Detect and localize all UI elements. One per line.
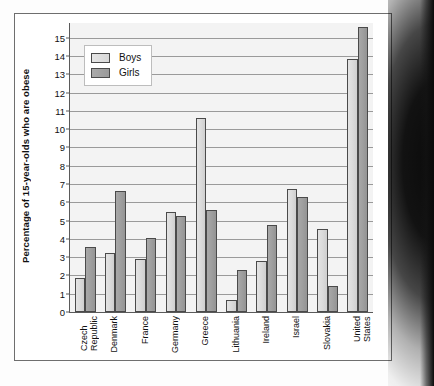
bar-boys [317, 229, 327, 312]
y-tick-label: 10 [54, 124, 65, 135]
x-axis-labels: Czech RepublicDenmarkFranceGermanyGreece… [69, 316, 372, 386]
y-tick-label: 15 [54, 32, 65, 43]
bar-group [252, 23, 282, 312]
x-axis-category-label: Greece [200, 316, 210, 346]
bar-boys [287, 189, 297, 312]
x-axis-category-label: Lithuania [231, 316, 241, 353]
bar-girls [358, 27, 368, 312]
x-axis-category-label: United States [352, 316, 372, 342]
x-axis-category-label: Slovakia [322, 316, 332, 350]
bar-boys [256, 261, 266, 312]
legend: Boys Girls [84, 45, 152, 86]
bar-girls [176, 216, 186, 312]
bar-group [222, 23, 252, 312]
bar-girls [146, 238, 156, 312]
bar-girls [237, 270, 247, 312]
y-tick-label: 3 [60, 252, 65, 263]
bar-girls [115, 191, 125, 312]
legend-item-boys: Boys [91, 50, 141, 65]
bar-boys [75, 278, 85, 312]
y-tick-label: 1 [60, 288, 65, 299]
legend-swatch-girls-icon [91, 68, 110, 78]
legend-swatch-boys-icon [91, 53, 110, 63]
figure-frame: Percentage of 15-year-olds who are obese… [14, 13, 392, 361]
y-tick-label: 14 [54, 50, 65, 61]
bar-girls [297, 197, 307, 312]
plot-area: 0123456789101112131415 Boys Girls [69, 23, 373, 313]
bar-girls [85, 247, 95, 312]
x-axis-category-label: Ireland [261, 316, 271, 344]
x-axis-category-label: Denmark [109, 316, 119, 353]
y-tick-label: 2 [60, 270, 65, 281]
y-tick-label: 11 [55, 105, 65, 116]
bar-girls [328, 286, 338, 312]
x-axis-category-label: Israel [291, 316, 301, 338]
y-tick-label: 4 [60, 233, 65, 244]
bar-boys [105, 253, 115, 312]
bar-boys [196, 118, 206, 312]
bar-group [343, 23, 373, 312]
x-axis-category-label: Czech Republic [79, 316, 99, 351]
bar-boys [135, 259, 145, 312]
x-axis-category-label: France [140, 316, 150, 344]
bar-group [282, 23, 312, 312]
bar-chart: Percentage of 15-year-olds who are obese… [15, 14, 391, 360]
y-tick-label: 12 [54, 87, 65, 98]
y-tick-label: 8 [60, 160, 65, 171]
y-tick-label: 7 [60, 178, 65, 189]
y-tick-label: 9 [60, 142, 65, 153]
bar-girls [267, 225, 277, 312]
y-axis-title: Percentage of 15-year-olds who are obese [17, 30, 35, 302]
bar-boys [347, 59, 357, 312]
y-tick-label: 5 [60, 215, 65, 226]
y-tick-label: 13 [54, 69, 65, 80]
bar-group [312, 23, 342, 312]
y-tick-label: 0 [60, 307, 65, 318]
y-tick-label: 6 [60, 197, 65, 208]
bar-group [161, 23, 191, 312]
scanned-page: Percentage of 15-year-olds who are obese… [0, 0, 434, 386]
legend-label-boys: Boys [119, 52, 141, 63]
bar-boys [226, 300, 236, 312]
legend-label-girls: Girls [119, 67, 140, 78]
book-spine-shadow [388, 0, 434, 386]
bar-boys [166, 212, 176, 312]
legend-item-girls: Girls [91, 65, 141, 80]
bar-group [191, 23, 221, 312]
x-axis-category-label: Germany [170, 316, 180, 353]
bar-girls [206, 210, 216, 312]
